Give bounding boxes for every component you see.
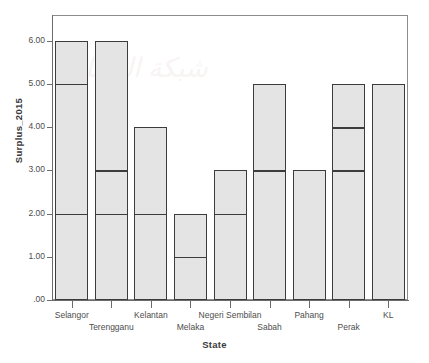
y-axis-line — [52, 15, 53, 301]
x-axis-title: State — [0, 339, 429, 350]
x-tick-mark — [230, 301, 231, 308]
bar-segment-divider — [332, 170, 365, 171]
y-tick-label: 4.00 — [5, 122, 45, 131]
bar-segment-divider — [253, 170, 286, 171]
bar-chart: شبكة البيانات .001.002.003.004.005.006.0… — [0, 0, 429, 363]
bar — [332, 84, 365, 300]
y-tick-mark — [47, 214, 52, 215]
x-tick-mark — [111, 301, 112, 308]
y-tick-label: 2.00 — [5, 209, 45, 218]
bar-segment-divider — [174, 257, 207, 258]
bar — [253, 84, 286, 300]
bar — [372, 84, 405, 300]
y-tick-mark — [47, 41, 52, 42]
y-tick-mark — [47, 170, 52, 171]
x-tick-mark — [309, 301, 310, 308]
x-tick-label: Perak — [299, 322, 399, 332]
x-tick-mark — [270, 301, 271, 308]
y-tick-mark — [47, 257, 52, 258]
bar-segment-divider — [95, 170, 128, 171]
x-tick-mark — [72, 301, 73, 308]
x-tick-mark — [349, 301, 350, 308]
bar-segment-divider — [95, 214, 128, 215]
x-tick-label: KL — [338, 310, 429, 320]
y-tick-mark — [47, 127, 52, 128]
y-tick-label: 6.00 — [5, 36, 45, 45]
bar-segment-divider — [332, 127, 365, 128]
bar-segment-divider — [55, 84, 88, 85]
y-tick-label: 3.00 — [5, 165, 45, 174]
bar-segment-divider — [134, 214, 167, 215]
bar-segment-divider — [55, 214, 88, 215]
y-axis-title: Surplus_2015 — [13, 66, 24, 196]
bar — [55, 41, 88, 300]
y-tick-mark — [47, 300, 52, 301]
x-tick-mark — [190, 301, 191, 308]
y-tick-label: 1.00 — [5, 252, 45, 261]
y-tick-label: .00 — [5, 295, 45, 304]
y-tick-label: 5.00 — [5, 79, 45, 88]
x-tick-mark — [151, 301, 152, 308]
bar-segment-divider — [214, 214, 247, 215]
x-tick-mark — [388, 301, 389, 308]
bar — [214, 170, 247, 300]
y-tick-mark — [47, 84, 52, 85]
bar — [293, 170, 326, 300]
